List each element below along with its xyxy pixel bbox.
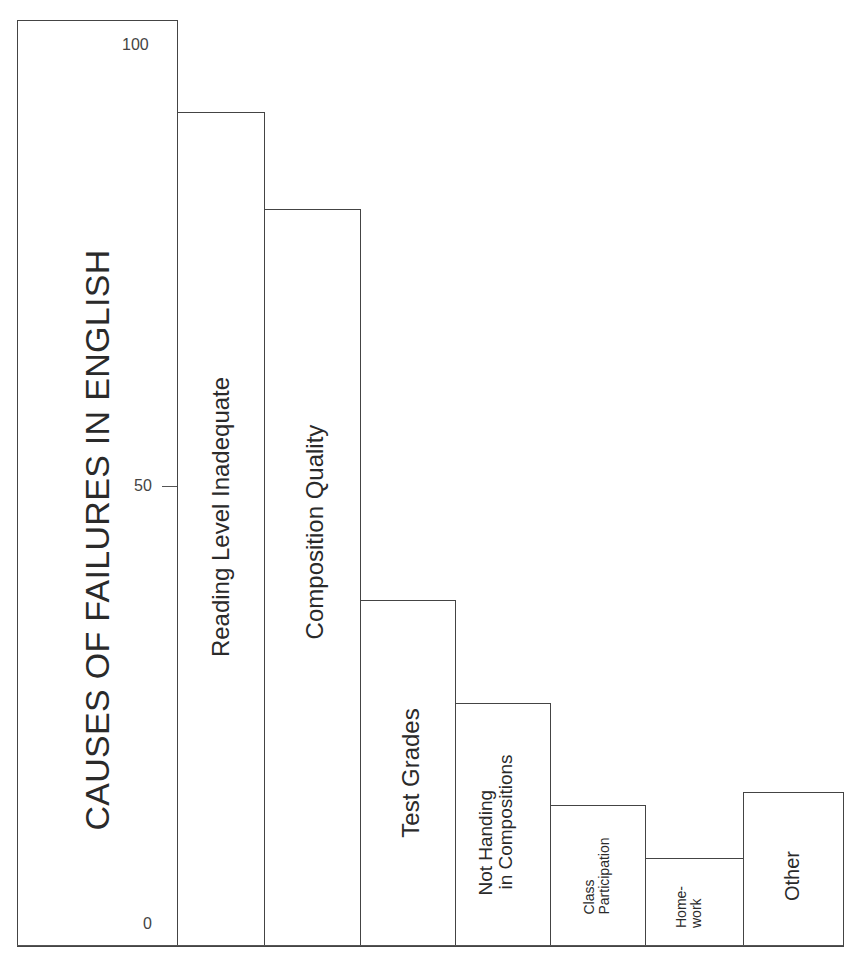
bar-label-line-1: Class (582, 837, 597, 914)
y-tick-0: 0 (143, 916, 152, 932)
bar-label-not-handing-in: Not Handing in Compositions (476, 754, 516, 895)
pareto-chart: CAUSES OF FAILURES IN ENGLISH 100 50 0 R… (0, 0, 860, 962)
bar-label-other: Other (782, 851, 803, 901)
bar-label-homework: Home- work (674, 886, 703, 928)
chart-title: CAUSES OF FAILURES IN ENGLISH (80, 249, 116, 830)
y-tick-mark-50 (162, 486, 177, 487)
bar-label-line-2: in Compositions (496, 754, 516, 895)
y-tick-100: 100 (122, 37, 149, 53)
bar-label-line-1: Not Handing (476, 754, 496, 895)
bar-label-line-2: Participation (597, 837, 612, 914)
bar-label-line-1: Home- (674, 886, 689, 928)
bar-label-class-participation: Class Participation (582, 837, 611, 914)
bar-label-reading-level: Reading Level Inadequate (208, 377, 233, 657)
bar-label-test-grades: Test Grades (398, 708, 423, 837)
bar-label-line-2: work (689, 886, 704, 928)
bar-label-composition-quality: Composition Quality (302, 425, 327, 640)
x-axis-baseline (17, 945, 843, 946)
y-tick-50: 50 (134, 478, 152, 494)
